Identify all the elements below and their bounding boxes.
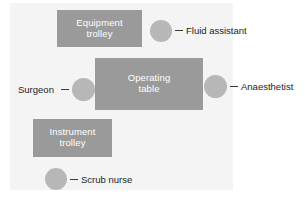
operating-table-box: Operating table — [95, 58, 203, 110]
anaesthetist-leader-line — [230, 86, 238, 87]
surgeon-person-icon — [72, 78, 95, 101]
fluid-assistant-label: Fluid assistant — [186, 26, 247, 36]
instrument-trolley-box: Instrument trolley — [33, 119, 112, 157]
equipment-trolley-label-line2: trolley — [76, 29, 122, 40]
equipment-trolley-box: Equipment trolley — [57, 10, 142, 47]
operating-table-label-line2: table — [128, 84, 171, 95]
instrument-trolley-label-line2: trolley — [50, 138, 96, 149]
scrub-nurse-label: Scrub nurse — [81, 175, 132, 185]
anaesthetist-person-icon — [204, 75, 227, 98]
diagram-canvas: Equipment trolley Operating table Instru… — [0, 0, 305, 201]
equipment-trolley-label-line1: Equipment — [76, 18, 122, 29]
surgeon-label: Surgeon — [18, 85, 54, 95]
fluid-assistant-person-icon — [150, 20, 172, 42]
fluid-assistant-leader-line — [175, 30, 183, 31]
scrub-nurse-person-icon — [45, 168, 67, 190]
scrub-nurse-leader-line — [70, 179, 78, 180]
anaesthetist-label: Anaesthetist — [241, 82, 293, 92]
surgeon-leader-line — [61, 89, 69, 90]
